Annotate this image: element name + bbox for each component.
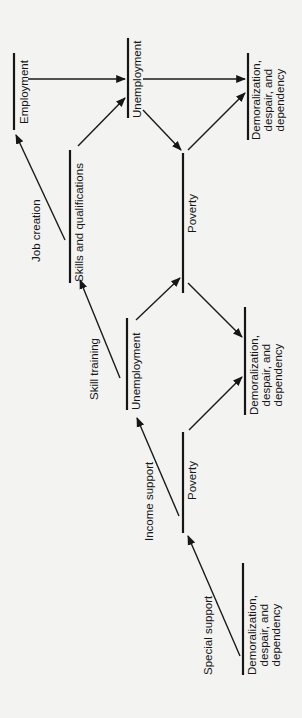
arrow-special-support: [188, 536, 240, 656]
edge-label-special-support: Special support: [202, 596, 214, 675]
arrow-skills-to-unemployment: [78, 98, 125, 146]
node-skills-and-qualifications: Skills and qualifications: [73, 163, 85, 282]
node-poverty-bottom: Poverty: [186, 461, 198, 500]
node-demoralization-bottom: Demoralization, despair, and dependency: [246, 595, 282, 675]
arrow-unemployment-mid-to-poverty-top: [136, 278, 180, 320]
arrow-poverty-top-to-demoralization-top: [188, 93, 245, 150]
arrow-unemployment-to-poverty-top: [143, 110, 181, 150]
arrow-skill-training: [80, 280, 120, 378]
node-demoralization-top: Demoralization, despair, and dependency: [250, 60, 286, 140]
edge-label-income-support: Income support: [143, 462, 155, 541]
edge-label-skill-training: Skill training: [88, 338, 100, 400]
arrow-poverty-top-to-demoralization-mid: [188, 283, 242, 337]
edge-label-job-creation: Job creation: [30, 199, 42, 262]
node-unemployment-top: Unemployment: [131, 41, 143, 118]
node-unemployment-mid: Unemployment: [130, 333, 142, 410]
arrow-poverty-bottom-to-demoralization-mid: [189, 377, 242, 430]
node-employment: Employment: [18, 60, 30, 124]
node-poverty-top: Poverty: [186, 194, 198, 233]
node-demoralization-mid: Demoralization, despair, and dependency: [248, 335, 284, 415]
